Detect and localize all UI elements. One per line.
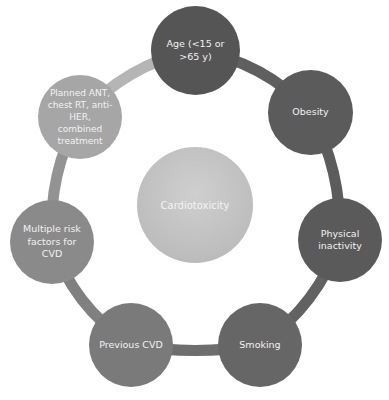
node-label: Smoking — [239, 339, 280, 352]
node-multiple-risk-factors: Multiple risk factors for CVD — [10, 200, 94, 284]
node-physical-inactivity: Physical inactivity — [298, 198, 382, 282]
node-label: Obesity — [292, 106, 328, 119]
node-smoking: Smoking — [218, 303, 302, 387]
node-label: Previous CVD — [99, 339, 163, 352]
node-planned-treatment: Planned ANT, chest RT, anti-HER, combine… — [38, 75, 122, 159]
node-label: Age (<15 or >65 y) — [167, 38, 225, 63]
node-obesity: Obesity — [268, 70, 353, 155]
center-node-cardiotoxicity: Cardiotoxicity — [137, 147, 253, 263]
center-label: Cardiotoxicity — [161, 200, 230, 211]
node-label: Multiple risk factors for CVD — [19, 223, 85, 261]
cardiotoxicity-risk-diagram: Cardiotoxicity Age (<15 or >65 y) Obesit… — [0, 0, 389, 400]
node-age: Age (<15 or >65 y) — [151, 6, 240, 95]
node-label: Planned ANT, chest RT, anti-HER, combine… — [46, 87, 114, 147]
node-previous-cvd: Previous CVD — [89, 303, 173, 387]
node-label: Physical inactivity — [312, 228, 368, 253]
